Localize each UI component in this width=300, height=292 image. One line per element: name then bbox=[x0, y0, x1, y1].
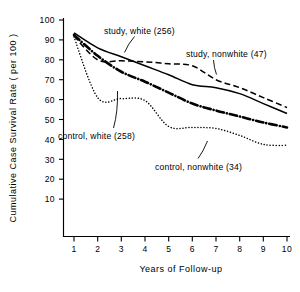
x-tick-label: 3 bbox=[119, 244, 124, 254]
x-axis-ticks bbox=[74, 237, 287, 242]
x-tick-label: 1 bbox=[71, 244, 76, 254]
x-tick-label: 7 bbox=[213, 244, 218, 254]
annotation-study-white: study, white (256) bbox=[104, 26, 175, 36]
y-tick-label: 10 bbox=[45, 194, 55, 204]
x-tick-label: 9 bbox=[261, 244, 266, 254]
x-tick-label: 8 bbox=[237, 244, 242, 254]
leader-control-nonwhite bbox=[198, 141, 208, 159]
y-tick-label: 20 bbox=[45, 174, 55, 184]
y-tick-label: 50 bbox=[45, 115, 55, 125]
y-axis-ticks bbox=[59, 20, 64, 199]
y-tick-label: 80 bbox=[45, 55, 55, 65]
x-tick-label: 6 bbox=[190, 244, 195, 254]
annotation-control-nonwhite: control, nonwhite (34) bbox=[155, 162, 242, 172]
leader-study-nonwhite bbox=[214, 60, 217, 75]
leader-study-white bbox=[125, 37, 135, 53]
survival-curve-chart: 100 90 80 70 60 50 40 30 20 10 1 bbox=[0, 0, 300, 292]
y-axis-tick-labels: 100 90 80 70 60 50 40 30 20 10 bbox=[40, 15, 55, 204]
y-tick-label: 30 bbox=[45, 155, 55, 165]
leader-control-white bbox=[114, 91, 118, 128]
y-tick-label: 70 bbox=[45, 75, 55, 85]
y-tick-label: 90 bbox=[45, 35, 55, 45]
annotation-study-nonwhite: study, nonwhite (47) bbox=[186, 49, 267, 59]
series-line-study-white bbox=[74, 33, 287, 114]
x-tick-label: 5 bbox=[166, 244, 171, 254]
x-axis-title: Years of Follow-up bbox=[139, 264, 222, 274]
x-tick-label: 10 bbox=[282, 244, 292, 254]
x-axis-tick-labels: 1 2 3 4 5 6 7 8 9 10 bbox=[71, 244, 292, 254]
chart-canvas: 100 90 80 70 60 50 40 30 20 10 1 bbox=[0, 0, 300, 292]
x-tick-label: 4 bbox=[142, 244, 147, 254]
y-tick-label: 60 bbox=[45, 95, 55, 105]
annotation-control-white: control, white (258) bbox=[58, 131, 135, 141]
y-tick-label: 40 bbox=[45, 135, 55, 145]
y-axis-title: Cumulative Case Survival Rate ( per 100 … bbox=[8, 33, 18, 222]
x-tick-label: 2 bbox=[95, 244, 100, 254]
series-line-study-nonwhite bbox=[74, 36, 287, 108]
y-tick-label: 100 bbox=[40, 15, 55, 25]
